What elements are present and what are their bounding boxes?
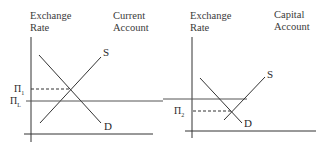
pil-subscript: L [17,102,21,108]
right-title-line1: Capital [274,9,310,21]
right-panel-title: Capital Account [274,9,310,33]
exchange-rate-diagram: Exchange Rate Current Account S D Π1 ΠL … [0,0,326,150]
pil-label: ΠL [10,95,21,111]
pi1-subscript: 1 [21,90,24,96]
left-title-line2: Account [113,22,149,34]
pi2-subscript: 2 [181,112,184,118]
left-supply-label: S [103,46,109,58]
right-demand-curve [200,78,242,123]
left-y-axis-label: Exchange Rate [30,10,71,34]
right-supply-label: S [267,68,273,80]
right-y-label-line1: Exchange [190,10,231,22]
left-panel-title: Current Account [113,10,149,34]
right-y-axis-label: Exchange Rate [190,10,231,34]
right-demand-label: D [244,117,252,129]
right-title-line2: Account [274,21,310,33]
left-y-label-line1: Exchange [30,10,71,22]
left-y-label-line2: Rate [30,22,71,34]
pi2-label: Π2 [174,105,184,121]
left-demand-label: D [104,120,112,132]
right-y-label-line2: Rate [190,22,231,34]
left-title-line1: Current [113,10,149,22]
